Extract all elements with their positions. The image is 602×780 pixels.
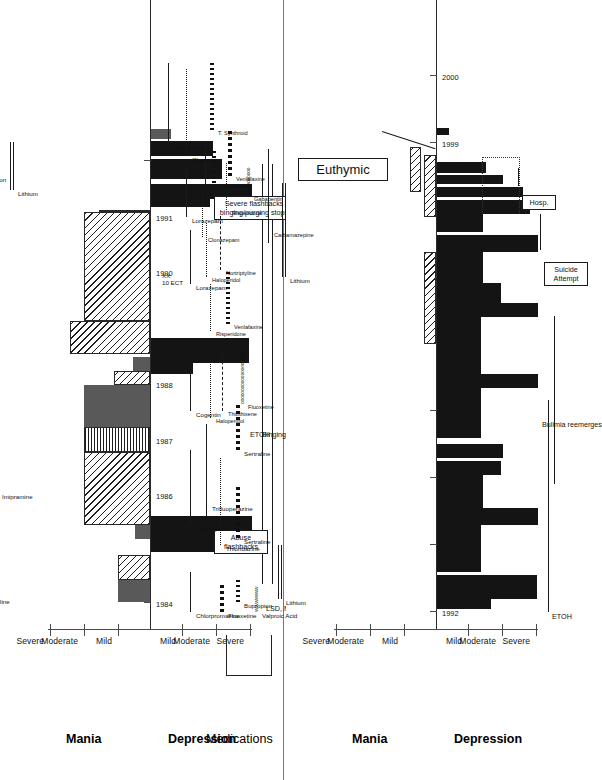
yeartick-1992-a (144, 160, 151, 161)
mania-bar (99, 210, 150, 212)
medline-haloperidol-b (210, 358, 211, 418)
mania-bar (70, 321, 150, 354)
annotation-etoh-b: ETOH (552, 612, 572, 621)
medname-trifluoperazine-b: Trifluoperazine (212, 505, 253, 512)
mania-bar (84, 427, 150, 452)
medname-bupropion-a: Bupropion (0, 176, 6, 183)
medline-trifluoperazine-b (206, 424, 207, 505)
panel-divider-a (283, 0, 284, 780)
medications-frame-b (226, 635, 272, 676)
group-label-depression-b: Depression (454, 732, 522, 746)
medline-lithium-a (10, 142, 14, 190)
year-label-1999-b: 1999 (442, 140, 459, 149)
medname-sertraline2-b: Sertraline (244, 450, 270, 457)
yeartick-1993-b (430, 544, 437, 545)
medname-maprotiline-b: Maprotiline (220, 183, 247, 189)
mania-bar (424, 252, 436, 344)
medname-fluoxetine2-b: Fluoxetine (248, 404, 274, 410)
annotation-hosp-b: Hosp. (522, 195, 556, 210)
depression-bar (437, 475, 483, 508)
mania-bar (84, 385, 150, 427)
medline-lithium-b (278, 545, 282, 599)
year-label-2000-b: 2000 (442, 73, 459, 82)
medications-header-b: Medications (206, 732, 273, 746)
leader-etoh-a (262, 164, 263, 584)
medname-clonazepam-b: Clonazepam (208, 237, 239, 243)
mania-bar (114, 371, 150, 385)
year-label-1988-a: 1988 (156, 381, 173, 390)
mania-bar (135, 525, 150, 539)
depression-bar (437, 461, 501, 475)
leader-euthymic-b (382, 131, 436, 149)
mania-bar (84, 212, 150, 321)
medline-haloperidol2-b (206, 223, 207, 277)
tick-dep-severe-b (536, 624, 537, 636)
leader-suicide-attempt-b (540, 214, 541, 250)
depression-bar (437, 388, 481, 438)
medname-carbamazepine-b: Carbamazepine (274, 232, 314, 238)
mania-bar (410, 147, 421, 192)
group-label-mania-b: Mania (352, 732, 387, 746)
medname-fluoxetine-b: Fluoxetine (228, 612, 257, 619)
medname-synthroid-b: T. Synthroid (218, 130, 248, 136)
medname-risperidone2-b: Risperidone (232, 210, 262, 216)
annotation-ect-b: XX 10 ECT (162, 272, 183, 286)
mania-bar (424, 155, 436, 217)
medname-amitriptyline-a: Amitriptyline (0, 598, 10, 605)
medname-thioridazine-b: Thioridazine (226, 545, 260, 552)
year-label-1986-a: 1986 (156, 492, 173, 501)
medname-clozapine-b: Clozapine (192, 156, 220, 163)
medname-valproic-acid-b: Valproic Acid (262, 612, 297, 619)
depression-bar (437, 303, 538, 317)
depression-bar (437, 283, 501, 303)
severity-axis-b (334, 629, 538, 630)
leader-bulimia-b (554, 316, 555, 484)
medname-lithium2-b: Lithium (290, 277, 310, 284)
tick-mania-severe-a (50, 624, 51, 636)
medline-chlorpromazine-b (190, 572, 191, 612)
depression-bar (437, 235, 538, 252)
medname-thiothixene-b: Thiothixene (228, 411, 257, 417)
year-label-1991-a: 1991 (156, 214, 173, 223)
medline-thiothixene-b (222, 351, 223, 411)
tick-dep-moderate-b (502, 624, 503, 636)
medline-risperidone-b (210, 284, 211, 331)
group-label-mania-a: Mania (66, 732, 101, 746)
mania-bar (118, 580, 150, 602)
depression-bar (437, 317, 481, 374)
medname-lithium-a: Lithium (18, 190, 38, 197)
year-label-1987-a: 1987 (156, 437, 173, 446)
tick-mania-moderate-b (370, 624, 371, 636)
year-label-1992-b: 1992 (442, 609, 459, 618)
tick-dep-moderate-a (216, 624, 217, 636)
tick-mania-mild-a (118, 624, 119, 636)
leader-etoh-b (548, 400, 549, 612)
annotation-suicide-attempt-b: Suicide Attempt (544, 262, 588, 286)
medline-lamotrigine-b (168, 63, 169, 143)
depression-bar (437, 128, 449, 135)
annotation-euthymic-b: Euthymic (298, 158, 388, 181)
medname-venlafaxine-b: Venlafaxine (234, 324, 263, 330)
medline-cogentin-b (190, 371, 191, 411)
tick-dep-mild-b (468, 624, 469, 636)
yeartick-1999-b (430, 142, 437, 143)
depression-bar (437, 252, 483, 283)
depression-bar (437, 508, 538, 525)
depression-bar (437, 525, 481, 572)
medline-lorazepam2-b (190, 230, 191, 284)
medname-lorazepam3-b: Lorazepam (192, 217, 223, 224)
medname-sertraline-b: Sertraline (244, 538, 270, 545)
medname-gabapentin-b: Gabapentin (254, 196, 283, 202)
medname-venlafaxine2-b: Venlafaxine (236, 176, 265, 182)
label-mania-mild-a: Mild (68, 636, 112, 646)
medname-haloperidol2-b: Haloperidol (212, 277, 240, 283)
depression-bar (151, 338, 249, 363)
medname-haloperidol-b: Haloperidol (216, 418, 244, 424)
label-dep-severe-b: Severe (486, 636, 530, 646)
annotation-bulimia-reemerges-b: Bulimia reemerges (542, 420, 602, 429)
medline-fluoxetine-b (220, 582, 224, 612)
depression-bar (437, 575, 537, 599)
leader-hosp-b (518, 168, 519, 186)
mania-bar (84, 452, 150, 525)
